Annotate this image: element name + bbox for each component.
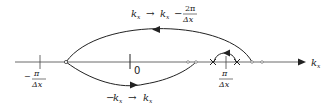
axis-label-sub: x bbox=[317, 62, 321, 69]
top-arrow-icon: → bbox=[146, 8, 155, 19]
bottom-lhs-sub: x bbox=[119, 97, 123, 104]
top-numerator: 2π bbox=[185, 4, 195, 13]
top-arc-arrow-icon bbox=[152, 26, 160, 33]
node-left bbox=[64, 60, 67, 63]
bottom-rhs-sub: x bbox=[149, 97, 153, 104]
top-minus: − bbox=[174, 8, 182, 19]
pos-pi-numerator: π bbox=[221, 69, 228, 78]
bottom-arc-arrow-icon bbox=[130, 82, 138, 89]
bottom-arc-label: − k x → k x bbox=[106, 92, 153, 104]
node-c bbox=[251, 61, 254, 64]
small-arc bbox=[214, 53, 236, 62]
top-lhs-sub: x bbox=[137, 13, 141, 20]
top-arc bbox=[66, 29, 252, 62]
top-rhs-sub: x bbox=[166, 13, 170, 20]
top-arc-label: k x → k x − 2π Δx bbox=[131, 4, 197, 24]
node-d bbox=[261, 61, 264, 64]
neg-pi-numerator: π bbox=[33, 69, 40, 78]
neg-pi-sign: − bbox=[24, 72, 31, 81]
node-b bbox=[195, 61, 198, 64]
small-arc-arrow-icon bbox=[223, 50, 230, 57]
top-denominator: Δx bbox=[182, 15, 194, 24]
bottom-arrow-icon: → bbox=[128, 92, 137, 103]
kx-mapping-diagram: k x − π Δx 0 π Δx k x → k x − 2π bbox=[0, 0, 329, 110]
pos-pi-denominator: Δx bbox=[218, 80, 230, 89]
node-a bbox=[187, 61, 190, 64]
axis-arrowhead-icon bbox=[298, 59, 306, 66]
neg-pi-denominator: Δx bbox=[31, 80, 43, 89]
zero-label: 0 bbox=[134, 65, 140, 76]
